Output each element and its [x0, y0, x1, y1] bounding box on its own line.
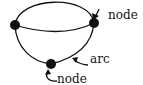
label-node-bottom: node	[57, 73, 87, 85]
node-left	[10, 20, 20, 30]
node-bottom	[46, 59, 56, 69]
label-node-top: node	[108, 9, 138, 21]
arrowhead-bottom-icon	[45, 69, 51, 75]
graph-diagram: node arc node	[0, 0, 143, 85]
node-right	[89, 18, 99, 28]
label-arc: arc	[90, 53, 110, 65]
arc-right	[51, 23, 94, 64]
arc-top	[15, 2, 94, 25]
arc-middle	[15, 23, 94, 32]
